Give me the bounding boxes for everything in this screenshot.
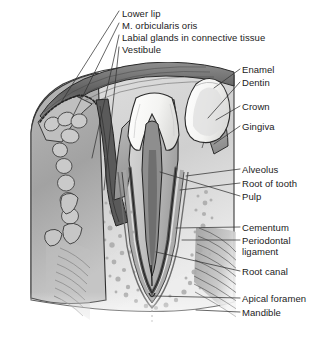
label-mandible: Mandible [242,307,281,318]
label-labial-glands: Labial glands in connective tissue [122,32,265,43]
label-pulp: Pulp [242,191,261,202]
label-root-of-tooth: Root of tooth [242,178,297,189]
label-enamel: Enamel [242,64,275,75]
label-dentin: Dentin [242,77,270,88]
label-vestibule: Vestibule [122,44,161,55]
label-periodontal-ligament: Periodontal ligament [242,235,316,257]
label-apical-foramen: Apical foramen [242,293,306,304]
label-lower-lip: Lower lip [122,8,160,19]
label-cementum: Cementum [242,222,289,233]
label-alveolus: Alveolus [242,164,278,175]
left-fade [0,60,34,340]
label-crown: Crown [242,101,270,112]
label-root-canal: Root canal [242,266,288,277]
label-gingiva: Gingiva [242,121,275,132]
label-orbicularis-oris: M. orbicularis oris [122,20,197,31]
tooth-anatomy-figure: Lower lip M. orbicularis oris Labial gla… [0,0,316,340]
